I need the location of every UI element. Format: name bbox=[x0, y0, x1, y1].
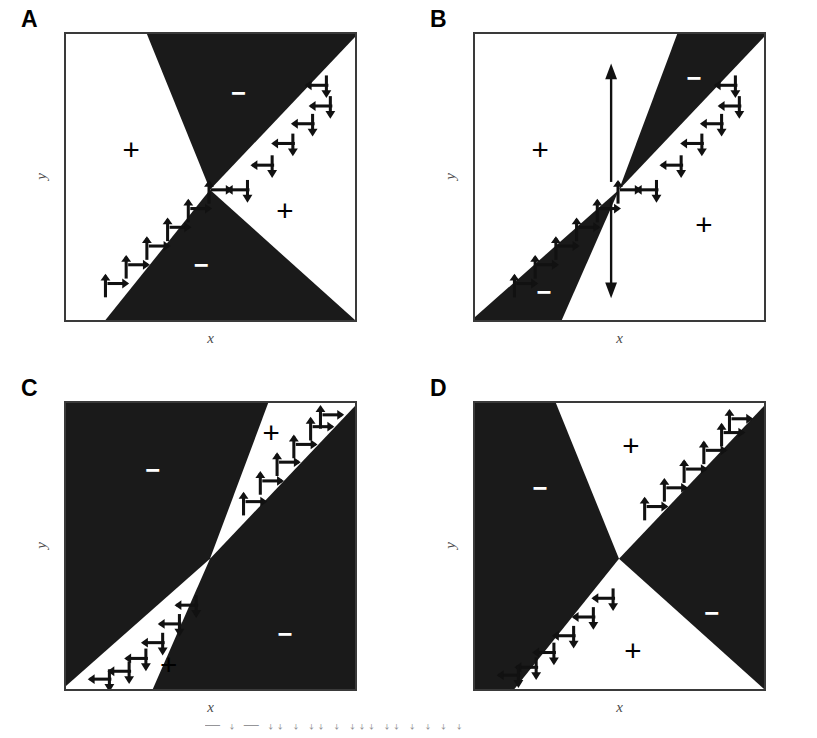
panel-c-sign-left: − bbox=[145, 456, 160, 484]
panel-b: B + − − + bbox=[409, 0, 817, 369]
panel-d-sign-right: − bbox=[704, 599, 719, 627]
panel-a-sign-left: + bbox=[122, 133, 139, 166]
caption-fragment: — ↓ — ↓↓ ↓ ↓↓ ↓ ↓↓↓ ↓↓ ↓ ↓ ↓ ↓ bbox=[205, 724, 465, 732]
panel-d-sign-bottom: + bbox=[624, 634, 641, 667]
panel-a-sign-right: + bbox=[276, 194, 293, 227]
panel-b-sign-upper-band: − bbox=[686, 64, 701, 92]
panel-d-ylabel: y bbox=[442, 537, 459, 555]
panel-c-sign-upper-band: + bbox=[263, 416, 280, 449]
panel-c-letter: C bbox=[21, 377, 38, 400]
panel-c-sign-right: − bbox=[277, 620, 292, 648]
panel-b-sign-right: + bbox=[695, 208, 712, 241]
panel-b-sign-lower-band: − bbox=[537, 278, 552, 306]
figure-canvas: A + − − + bbox=[0, 0, 817, 738]
panel-a-sign-top: − bbox=[231, 79, 246, 107]
panel-d: D − + + − bbox=[409, 369, 817, 738]
panel-c-ylabel: y bbox=[33, 537, 50, 555]
panel-d-plot-svg: − + + − bbox=[475, 403, 764, 689]
panel-c-plot-box: − + + − bbox=[64, 401, 357, 691]
panel-d-sign-top: + bbox=[622, 429, 639, 462]
panel-c-xlabel: x bbox=[64, 699, 357, 716]
panel-b-letter: B bbox=[430, 8, 447, 31]
caption-strip: — ↓ — ↓↓ ↓ ↓↓ ↓ ↓↓↓ ↓↓ ↓ ↓ ↓ ↓ bbox=[0, 724, 817, 738]
panel-a-ylabel: y bbox=[33, 168, 50, 186]
panel-c-plot-svg: − + + − bbox=[66, 403, 355, 689]
panel-a-sign-bottom: − bbox=[194, 251, 209, 279]
panel-d-letter: D bbox=[430, 377, 447, 400]
panel-b-xlabel: x bbox=[473, 330, 766, 347]
panel-a-xlabel: x bbox=[64, 330, 357, 347]
panel-b-sign-left: + bbox=[531, 133, 548, 166]
panel-a: A + − − + bbox=[0, 0, 408, 369]
panel-d-xlabel: x bbox=[473, 699, 766, 716]
panel-a-plot-svg: + − − + bbox=[66, 34, 355, 320]
panel-b-plot-box: + − − + bbox=[473, 32, 766, 322]
panel-b-ylabel: y bbox=[442, 168, 459, 186]
panel-a-plot-box: + − − + bbox=[64, 32, 357, 322]
panel-d-sign-left: − bbox=[533, 474, 548, 502]
panel-a-letter: A bbox=[21, 8, 38, 31]
panel-c: C − + + − bbox=[0, 369, 408, 738]
panel-d-plot-box: − + + − bbox=[473, 401, 766, 691]
panel-b-plot-svg: + − − + bbox=[475, 34, 764, 320]
